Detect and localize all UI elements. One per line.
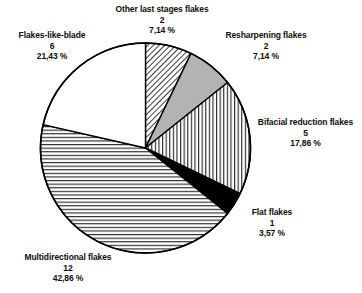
pie-label-count: 12 bbox=[4, 263, 132, 274]
pie-label-count: 2 bbox=[96, 15, 228, 26]
pie-chart: Other last stages flakes 2 7,14 % Reshar… bbox=[0, 0, 362, 293]
pie-label-name: Multidirectional flakes bbox=[4, 252, 132, 263]
pie-label-bifacial-reduction-flakes: Bifacial reduction flakes 5 17,86 % bbox=[249, 117, 362, 149]
pie-label-flakes-like-blade: Flakes-like-blade 6 21,43 % bbox=[2, 30, 102, 62]
pie-label-count: 5 bbox=[249, 128, 362, 139]
pie-label-percent: 3,57 % bbox=[232, 228, 312, 239]
pie-label-name: Flat flakes bbox=[232, 207, 312, 218]
pie-label-percent: 7,14 % bbox=[206, 51, 326, 62]
pie-label-count: 6 bbox=[2, 41, 102, 52]
pie-label-flat-flakes: Flat flakes 1 3,57 % bbox=[232, 207, 312, 239]
pie-label-name: Flakes-like-blade bbox=[2, 30, 102, 41]
pie-label-percent: 17,86 % bbox=[249, 138, 362, 149]
pie-label-name: Resharpening flakes bbox=[206, 30, 326, 41]
pie-label-name: Other last stages flakes bbox=[96, 4, 228, 15]
pie-label-name: Bifacial reduction flakes bbox=[249, 117, 362, 128]
pie-label-resharpening-flakes: Resharpening flakes 2 7,14 % bbox=[206, 30, 326, 62]
pie-label-percent: 42,86 % bbox=[4, 273, 132, 284]
pie-label-count: 1 bbox=[232, 218, 312, 229]
pie-label-count: 2 bbox=[206, 41, 326, 52]
pie-label-percent: 21,43 % bbox=[2, 51, 102, 62]
pie-label-multidirectional-flakes: Multidirectional flakes 12 42,86 % bbox=[4, 252, 132, 284]
